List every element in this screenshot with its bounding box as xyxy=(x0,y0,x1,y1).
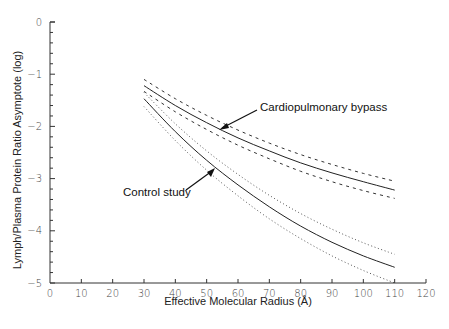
annotation-control: Control study xyxy=(123,168,215,198)
axes xyxy=(50,22,426,283)
x-tick-label: 100 xyxy=(354,288,373,299)
annotation-cpb-label: Cardiopulmonary bypass xyxy=(260,101,387,113)
x-tick-label: 110 xyxy=(385,288,404,299)
y-tick-label: −4 xyxy=(27,225,42,236)
y-tick-label: −5 xyxy=(27,278,42,289)
x-tick-label: 30 xyxy=(138,288,151,299)
x-tick-label: 10 xyxy=(75,288,88,299)
y-tick-label: 0 xyxy=(36,17,42,28)
line-chart: 01020304050607080901001101200−1−2−3−4−5 … xyxy=(0,0,449,329)
annotation-control-label: Control study xyxy=(123,186,191,198)
x-tick-label: 20 xyxy=(106,288,119,299)
cardiopulmonary-bypass-upper-bound-line xyxy=(144,79,395,181)
x-tick-label: 90 xyxy=(326,288,339,299)
control-study-line xyxy=(144,99,395,268)
y-axis-title: Lymph/Plasma Protein Ratio Asymptote (lo… xyxy=(11,51,23,269)
arrowhead-control-icon xyxy=(207,168,215,177)
y-tick-label: −1 xyxy=(27,69,42,80)
control-study-upper-bound-line xyxy=(144,92,395,254)
y-tick-label: −3 xyxy=(27,173,42,184)
tick-labels: 01020304050607080901001101200−1−2−3−4−5 xyxy=(27,17,435,300)
arrow-control xyxy=(186,171,212,190)
x-tick-label: 0 xyxy=(47,288,53,299)
annotation-cpb: Cardiopulmonary bypass xyxy=(219,101,387,130)
x-axis-title: Effective Molecular Radius (Å) xyxy=(164,295,312,307)
x-tick-label: 120 xyxy=(416,288,435,299)
y-tick-label: −2 xyxy=(27,121,42,132)
